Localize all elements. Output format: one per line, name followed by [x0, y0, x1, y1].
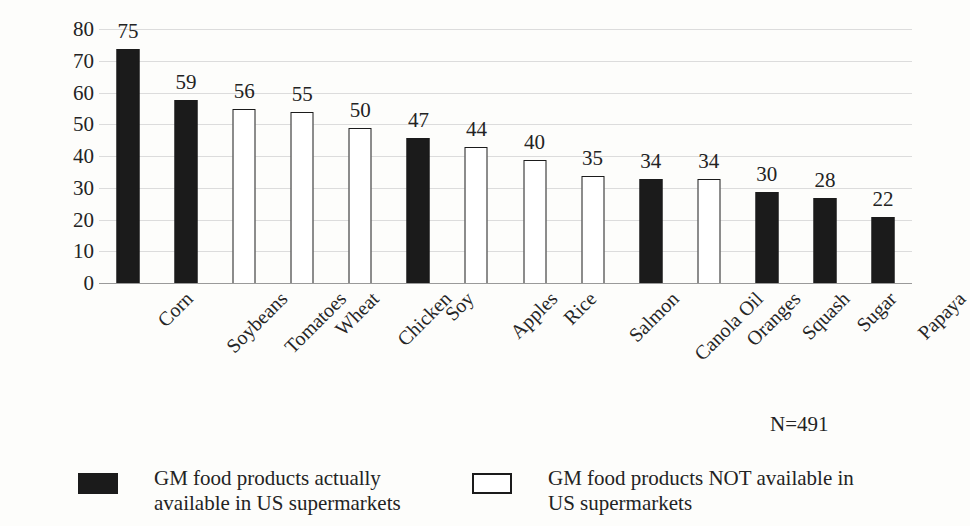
- bar[interactable]: [407, 138, 430, 284]
- bar-slot: 22: [854, 30, 912, 284]
- x-axis-category-label: Squash: [798, 288, 853, 343]
- bar-value-label: 30: [756, 164, 777, 185]
- bar-slot: 44: [447, 30, 505, 284]
- y-axis-tick-label: 40: [54, 146, 94, 167]
- bar-value-label: 56: [234, 81, 255, 102]
- x-axis-category-label: Salmon: [624, 288, 681, 345]
- x-axis-category-labels: CornSoybeansTomatoesWheatChickenSoyApple…: [99, 288, 912, 398]
- bar-value-label: 34: [640, 151, 661, 172]
- bar[interactable]: [233, 109, 256, 284]
- bar-slot: 47: [389, 30, 447, 284]
- legend-label: GM food products NOT available inUS supe…: [548, 466, 854, 516]
- bar-slot: 55: [273, 30, 331, 284]
- bar-value-label: 75: [118, 21, 139, 42]
- y-axis-tick-label: 50: [54, 114, 94, 135]
- y-axis-tick-labels: 01020304050607080: [54, 0, 94, 526]
- legend-label: GM food products actuallyavailable in US…: [154, 466, 401, 516]
- y-axis-tick-label: 30: [54, 178, 94, 199]
- bar-slot: 50: [331, 30, 389, 284]
- bar-value-label: 55: [292, 84, 313, 105]
- bar-slot: 28: [796, 30, 854, 284]
- x-axis-category-label: Apples: [507, 288, 561, 342]
- bar[interactable]: [639, 179, 662, 284]
- bar-slot: 30: [738, 30, 796, 284]
- bar[interactable]: [813, 198, 836, 284]
- bar-value-label: 28: [814, 170, 835, 191]
- bar-value-label: 35: [582, 148, 603, 169]
- bar-slot: 35: [564, 30, 622, 284]
- bar[interactable]: [175, 100, 198, 284]
- plot-area: 7559565550474440353434302822: [99, 30, 912, 284]
- bar[interactable]: [581, 176, 604, 284]
- y-axis-tick-label: 10: [54, 241, 94, 262]
- bar-value-label: 44: [466, 119, 487, 140]
- bar-slot: 75: [99, 30, 157, 284]
- x-axis-category-label: Corn: [154, 288, 196, 330]
- bar-slot: 56: [215, 30, 273, 284]
- legend-label-line-2: US supermarkets: [548, 491, 854, 516]
- bar[interactable]: [697, 179, 720, 284]
- legend: GM food products actuallyavailable in US…: [0, 466, 929, 526]
- bar-slot: 34: [622, 30, 680, 284]
- bar-value-label: 59: [176, 72, 197, 93]
- x-axis-line: [99, 283, 912, 284]
- x-axis-category-label: Sugar: [853, 288, 900, 335]
- bar[interactable]: [117, 49, 140, 284]
- bar-value-label: 34: [698, 151, 719, 172]
- bar[interactable]: [755, 192, 778, 284]
- bar[interactable]: [523, 160, 546, 284]
- legend-swatch: [472, 473, 512, 494]
- legend-label-line-1: GM food products NOT available in: [548, 466, 854, 490]
- bar-value-label: 47: [408, 110, 429, 131]
- y-axis-tick-label: 0: [54, 273, 94, 294]
- bar[interactable]: [871, 217, 894, 284]
- y-axis-tick-label: 80: [54, 19, 94, 40]
- legend-label-line-2: available in US supermarkets: [154, 491, 401, 516]
- y-axis-tick-label: 20: [54, 210, 94, 231]
- legend-label-line-1: GM food products actually: [154, 466, 381, 490]
- bar-slot: 40: [506, 30, 564, 284]
- y-axis-tick-label: 70: [54, 51, 94, 72]
- bar-series-group: 7559565550474440353434302822: [99, 30, 912, 284]
- bar[interactable]: [349, 128, 372, 284]
- x-axis-category-label: Papaya: [914, 288, 969, 343]
- x-axis-category-label: Soybeans: [223, 288, 291, 356]
- y-axis-tick-label: 60: [54, 83, 94, 104]
- bar-value-label: 40: [524, 132, 545, 153]
- bar-slot: 59: [157, 30, 215, 284]
- x-axis-category-label: Rice: [559, 288, 599, 328]
- sample-size-annotation: N=491: [770, 414, 829, 435]
- bar[interactable]: [465, 147, 488, 284]
- bar-value-label: 50: [350, 100, 371, 121]
- legend-entry[interactable]: GM food products actuallyavailable in US…: [78, 466, 401, 516]
- legend-entry[interactable]: GM food products NOT available inUS supe…: [472, 466, 854, 516]
- bar-slot: 34: [680, 30, 738, 284]
- legend-swatch: [78, 473, 118, 494]
- x-axis-category-label: Chicken: [394, 288, 455, 349]
- bar[interactable]: [291, 112, 314, 284]
- bar-value-label: 22: [872, 189, 893, 210]
